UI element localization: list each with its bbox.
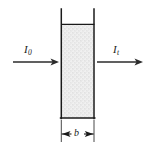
incident-intensity-label: I0 — [24, 44, 32, 57]
transmitted-intensity-label: It — [113, 44, 119, 57]
incident-intensity-subscript: 0 — [28, 48, 32, 57]
solution-fill-overlay — [62, 25, 93, 119]
transmitted-intensity-subscript: t — [117, 48, 119, 57]
figure-canvas — [0, 0, 152, 148]
path-length-label: b — [74, 128, 79, 138]
absorption-cell-figure: I0 It b — [0, 0, 152, 148]
